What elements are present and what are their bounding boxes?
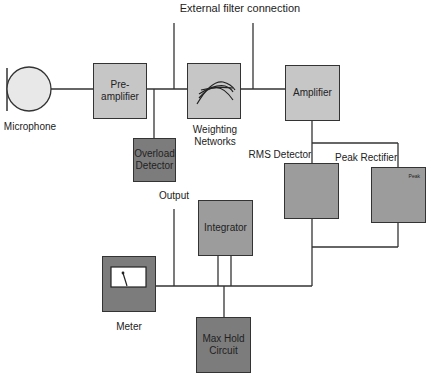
- peak-rectifier-label: Peak Rectifier: [335, 152, 395, 164]
- overload-detector-block: Overload Detector: [133, 138, 176, 182]
- meter-block: [102, 256, 156, 312]
- weighting-label-line2: Networks: [180, 136, 250, 148]
- amplifier-label: Amplifier: [293, 87, 332, 99]
- preamplifier-label-line2: amplifier: [101, 91, 139, 103]
- max-hold-circuit-block: Max Hold Circuit: [196, 317, 251, 373]
- meter-gauge-icon: [103, 257, 153, 307]
- microphone-icon: [0, 60, 60, 120]
- preamplifier-block: Pre- amplifier: [93, 63, 147, 119]
- output-label: Output: [154, 190, 194, 202]
- overload-label-line1: Overload: [134, 148, 175, 160]
- peak-rectifier-block: Peak: [371, 167, 426, 223]
- max-hold-label-line1: Max Hold: [202, 333, 244, 345]
- overload-label-line2: Detector: [136, 160, 174, 172]
- integrator-label: Integrator: [204, 222, 247, 234]
- amplifier-block: Amplifier: [285, 65, 340, 121]
- peak-inner-label: Peak: [409, 173, 420, 179]
- external-filter-label: External filter connection: [150, 2, 330, 14]
- rms-detector-block: [284, 163, 339, 219]
- max-hold-label-line2: Circuit: [209, 345, 237, 357]
- preamplifier-label-line1: Pre-: [111, 79, 130, 91]
- weighting-networks-label: Weighting Networks: [180, 124, 250, 148]
- microphone-label: Microphone: [0, 121, 60, 133]
- integrator-block: Integrator: [198, 200, 253, 256]
- weighting-label-line1: Weighting: [180, 124, 250, 136]
- meter-label: Meter: [102, 321, 156, 333]
- rms-detector-label: RMS Detector: [248, 149, 312, 161]
- weighting-curves-icon: [189, 66, 239, 116]
- weighting-networks-block: [187, 63, 241, 119]
